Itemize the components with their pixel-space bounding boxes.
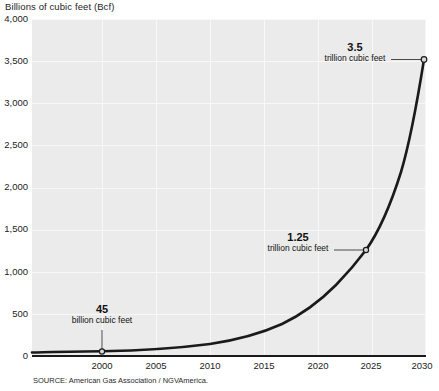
annotation-unit: trillion cubic feet (320, 53, 390, 64)
data-point-marker-2025 (363, 247, 368, 252)
chart-container: Billions of cubic feet (Bcf) 4,000 3,500… (0, 0, 439, 391)
annotation-unit: billion cubic feet (43, 315, 161, 326)
data-point-marker-2030 (421, 57, 427, 63)
annotation-2025: 1.25 trillion cubic feet (263, 231, 333, 254)
data-point-marker-2000 (99, 349, 104, 354)
annotation-value: 45 (43, 303, 161, 315)
annotation-unit: trillion cubic feet (263, 243, 333, 254)
source-note: SOURCE: American Gas Association / NGVAm… (33, 376, 208, 385)
annotation-2000: 45 billion cubic feet (43, 303, 161, 326)
annotation-value: 1.25 (263, 231, 333, 243)
annotation-value: 3.5 (320, 41, 390, 53)
annotation-2030: 3.5 trillion cubic feet (320, 41, 390, 64)
